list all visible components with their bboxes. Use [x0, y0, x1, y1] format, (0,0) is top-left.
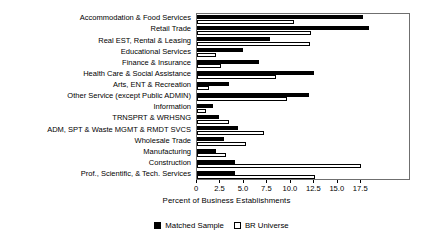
- category-label: ADM, SPT & Waste MGMT & RMDT SVCS: [2, 126, 191, 134]
- bar-row: [197, 82, 409, 92]
- bar-matched-sample: [197, 15, 363, 19]
- category-label: TRNSPRT & WRHSNG: [2, 114, 191, 122]
- axis-tick: [360, 180, 361, 183]
- bar-row: [197, 149, 409, 159]
- bar-row: [197, 48, 409, 58]
- bar-matched-sample: [197, 26, 369, 30]
- axis-tick-label: 0: [194, 184, 198, 193]
- legend-swatch-filled-icon: [154, 222, 161, 229]
- bar-group-container: [197, 14, 409, 179]
- bar-br-universe: [197, 97, 287, 101]
- legend-label-br-universe: BR Universe: [245, 221, 289, 230]
- bar-row: [197, 137, 409, 147]
- bar-br-universe: [197, 164, 361, 168]
- axis-tick-label: 5.0: [238, 184, 249, 193]
- bar-matched-sample: [197, 160, 235, 164]
- bar-matched-sample: [197, 171, 235, 175]
- x-axis-title-text: Percent of Business Establishments: [163, 196, 291, 205]
- bar-row: [197, 171, 409, 181]
- category-label: Construction: [2, 159, 191, 167]
- axis-tick-label: 17.5: [353, 184, 368, 193]
- category-label: Prof., Scientific, & Tech. Services: [2, 170, 191, 178]
- axis-tick: [266, 180, 267, 183]
- category-label: Retail Trade: [2, 25, 191, 33]
- bar-matched-sample: [197, 48, 243, 52]
- bar-row: [197, 115, 409, 125]
- axis-tick-label: 12.5: [306, 184, 321, 193]
- bar-matched-sample: [197, 60, 259, 64]
- axis-tick: [313, 180, 314, 183]
- category-label: Educational Services: [2, 48, 191, 56]
- axis-tick-label: 2.5: [214, 184, 225, 193]
- x-axis-title: Percent of Business Establishments: [0, 196, 429, 205]
- axis-tick: [337, 180, 338, 183]
- bar-matched-sample: [197, 93, 309, 97]
- bar-matched-sample: [197, 149, 216, 153]
- category-label: Other Service (except Public ADMIN): [2, 92, 191, 100]
- axis-tick-label: 15.0: [329, 184, 344, 193]
- axis-tick: [196, 180, 197, 183]
- bar-br-universe: [197, 109, 206, 113]
- axis-tick: [219, 180, 220, 183]
- bar-matched-sample: [197, 82, 229, 86]
- bar-row: [197, 126, 409, 136]
- bar-row: [197, 160, 409, 170]
- axis-tick: [290, 180, 291, 183]
- chart-legend: Matched Sample BR Universe: [0, 218, 429, 232]
- category-label: Arts, ENT & Recreation: [2, 81, 191, 89]
- category-label: Accommodation & Food Services: [2, 14, 191, 22]
- category-label: Wholesale Trade: [2, 137, 191, 145]
- bar-row: [197, 104, 409, 114]
- axis-tick: [243, 180, 244, 183]
- bar-row: [197, 15, 409, 25]
- category-label: Health Care & Social Assistance: [2, 70, 191, 78]
- bar-br-universe: [197, 31, 311, 35]
- plot-area: [196, 13, 410, 180]
- legend-item-br-universe: BR Universe: [234, 221, 289, 230]
- axis-tick-label: 10.0: [282, 184, 297, 193]
- bar-matched-sample: [197, 104, 213, 108]
- bar-matched-sample: [197, 115, 219, 119]
- bar-br-universe: [197, 153, 226, 157]
- bar-br-universe: [197, 131, 264, 135]
- bar-br-universe: [197, 120, 229, 124]
- category-label: Manufacturing: [2, 148, 191, 156]
- bar-matched-sample: [197, 37, 270, 41]
- bar-matched-sample: [197, 137, 224, 141]
- bar-matched-sample: [197, 71, 314, 75]
- legend-swatch-outline-icon: [234, 222, 241, 229]
- category-label: Finance & Insurance: [2, 59, 191, 67]
- axis-tick-label: 7.5: [261, 184, 272, 193]
- bar-br-universe: [197, 75, 276, 79]
- bar-row: [197, 93, 409, 103]
- category-axis-labels: Accommodation & Food ServicesRetail Trad…: [0, 13, 191, 180]
- bar-row: [197, 71, 409, 81]
- bar-br-universe: [197, 64, 221, 68]
- category-label: Information: [2, 103, 191, 111]
- bar-br-universe: [197, 142, 246, 146]
- bar-br-universe: [197, 86, 209, 90]
- bar-row: [197, 60, 409, 70]
- bar-br-universe: [197, 53, 216, 57]
- bar-br-universe: [197, 20, 294, 24]
- horizontal-bar-chart: Accommodation & Food ServicesRetail Trad…: [0, 0, 429, 240]
- x-axis-tick-labels: 02.55.07.510.012.515.017.5: [150, 184, 429, 196]
- category-label: Real EST, Rental & Leasing: [2, 37, 191, 45]
- legend-item-matched-sample: Matched Sample: [154, 221, 224, 230]
- bar-br-universe: [197, 42, 310, 46]
- legend-label-matched-sample: Matched Sample: [165, 221, 224, 230]
- bar-matched-sample: [197, 126, 238, 130]
- bar-row: [197, 37, 409, 47]
- bar-br-universe: [197, 175, 315, 179]
- bar-row: [197, 26, 409, 36]
